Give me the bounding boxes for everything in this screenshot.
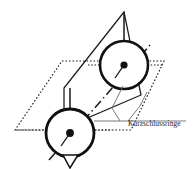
lower-ring-center-dot — [66, 129, 74, 137]
upper-ring-center-dot — [120, 61, 127, 68]
annotation-label-kurzschlussringe: Kurzschlussringe — [128, 119, 181, 128]
diagram-canvas: Kurzschlussringe — [0, 0, 196, 169]
diagram-background — [0, 0, 196, 169]
technical-diagram: Kurzschlussringe — [0, 0, 196, 169]
